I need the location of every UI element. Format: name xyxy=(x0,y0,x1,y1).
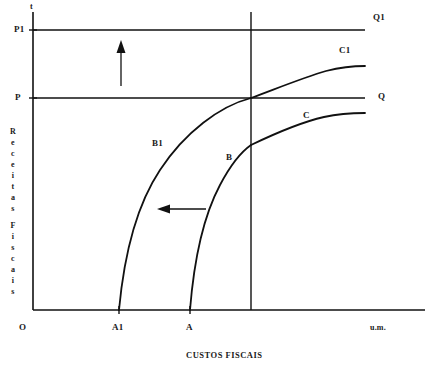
curve-c1 xyxy=(251,66,365,98)
curve-b xyxy=(190,145,251,310)
y-axis-label-letter: i xyxy=(12,170,14,181)
y-axis-label-letter: F xyxy=(10,220,15,231)
fiscal-revenue-diagram: t P1 P A1 A O u.m. ReceitasFiscais B1 B … xyxy=(0,0,435,371)
x-tick-label-a1: A1 xyxy=(112,322,123,332)
y-axis-label-letter: i xyxy=(12,275,14,286)
curve-label-b1: B1 xyxy=(152,138,163,148)
y-axis-label-letter: e xyxy=(11,137,15,148)
y-axis-label-letter: s xyxy=(11,242,14,253)
y-axis-label-letter: s xyxy=(11,286,14,297)
x-axis-unit-label: u.m. xyxy=(370,323,386,332)
y-axis-label: ReceitasFiscais xyxy=(10,126,16,297)
y-axis-top-symbol: t xyxy=(30,2,33,11)
y-axis-label-letter: s xyxy=(11,203,14,214)
y-axis-label-letter: c xyxy=(11,253,15,264)
curve-label-b: B xyxy=(226,152,232,162)
y-axis-label-letter: R xyxy=(10,126,16,137)
curve-b1 xyxy=(119,98,251,310)
y-tick-label-p: P xyxy=(15,92,21,102)
curve-label-c1: C1 xyxy=(339,45,350,55)
y-axis-label-letter: i xyxy=(12,231,14,242)
curve-label-q: Q xyxy=(378,91,385,101)
shift-up-arrow xyxy=(117,40,126,86)
x-tick-label-a: A xyxy=(186,322,193,332)
figure-caption: CUSTOS FISCAIS xyxy=(186,350,263,360)
y-tick-label-p1: P1 xyxy=(14,24,24,34)
curve-label-c: C xyxy=(303,110,310,120)
origin-label: O xyxy=(19,322,26,332)
y-axis-label-letter: t xyxy=(12,181,15,192)
diagram-canvas xyxy=(0,0,435,371)
y-axis-label-letter: c xyxy=(11,148,15,159)
shift-left-arrow xyxy=(157,205,206,214)
y-axis-label-letter: a xyxy=(11,264,15,275)
curve-label-q1: Q1 xyxy=(373,12,385,22)
y-axis-label-letter: a xyxy=(11,192,15,203)
y-axis-label-letter: e xyxy=(11,159,15,170)
